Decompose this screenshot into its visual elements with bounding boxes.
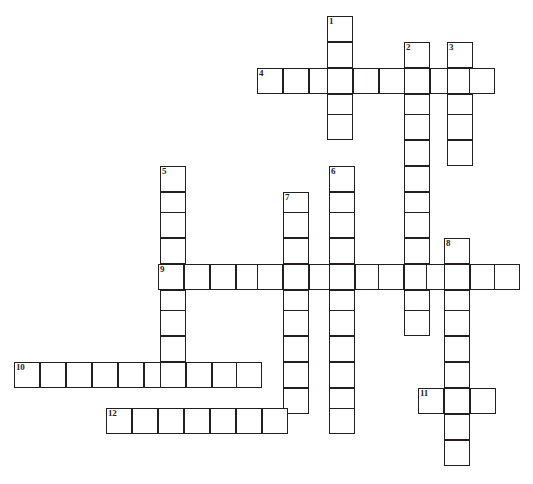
crossword-cell[interactable]: 8 — [444, 238, 470, 264]
crossword-cell[interactable] — [404, 114, 430, 140]
crossword-cell[interactable]: 6 — [329, 166, 355, 192]
crossword-cell[interactable] — [158, 408, 184, 434]
crossword-cell[interactable] — [262, 408, 288, 434]
crossword-cell[interactable] — [329, 310, 355, 336]
clue-number: 4 — [259, 68, 263, 78]
crossword-cell[interactable] — [283, 264, 309, 290]
crossword-cell[interactable] — [329, 238, 355, 264]
crossword-cell[interactable] — [283, 68, 309, 94]
clue-number: 7 — [285, 192, 289, 202]
clue-number: 6 — [331, 166, 335, 176]
crossword-cell[interactable] — [404, 140, 430, 166]
crossword-cell[interactable] — [444, 336, 470, 362]
crossword-cell[interactable] — [444, 264, 470, 290]
crossword-cell[interactable] — [444, 440, 470, 466]
crossword-cell[interactable] — [160, 362, 186, 388]
clue-number: 11 — [420, 388, 428, 398]
crossword-cell[interactable] — [444, 310, 470, 336]
clue-number: 2 — [406, 42, 410, 52]
crossword-cell[interactable] — [210, 264, 236, 290]
crossword-cell[interactable] — [447, 140, 473, 166]
crossword-cell[interactable] — [404, 310, 430, 336]
crossword-cell[interactable] — [404, 212, 430, 238]
crossword-cell[interactable]: 3 — [447, 42, 473, 68]
crossword-cell[interactable] — [329, 212, 355, 238]
crossword-cell[interactable] — [470, 264, 496, 290]
crossword-cell[interactable] — [236, 408, 262, 434]
crossword-cell[interactable] — [236, 362, 262, 388]
crossword-cell[interactable] — [132, 408, 158, 434]
clue-number: 10 — [16, 362, 24, 372]
crossword-cell[interactable] — [283, 212, 309, 238]
crossword-cell[interactable] — [327, 68, 353, 94]
crossword-cell[interactable] — [118, 362, 144, 388]
crossword-cell[interactable] — [444, 388, 470, 414]
crossword-cell[interactable] — [494, 264, 520, 290]
crossword-cell[interactable] — [469, 68, 495, 94]
crossword-cell[interactable] — [283, 238, 309, 264]
crossword-cell[interactable]: 10 — [14, 362, 40, 388]
clue-number: 9 — [160, 264, 164, 274]
crossword-cell[interactable] — [184, 408, 210, 434]
crossword-cell[interactable] — [327, 114, 353, 140]
crossword-cell[interactable] — [329, 264, 355, 290]
crossword-grid[interactable]: 123456789101112 — [0, 0, 533, 484]
crossword-cell[interactable]: 4 — [257, 68, 283, 94]
crossword-cell[interactable] — [160, 310, 186, 336]
crossword-cell[interactable] — [212, 362, 238, 388]
crossword-cell[interactable] — [447, 114, 473, 140]
clue-number: 8 — [446, 238, 450, 248]
crossword-cell[interactable] — [327, 42, 353, 68]
clue-number: 3 — [449, 42, 453, 52]
crossword-cell[interactable] — [404, 238, 430, 264]
crossword-cell[interactable] — [470, 388, 496, 414]
crossword-cell[interactable] — [160, 212, 186, 238]
crossword-cell[interactable] — [186, 362, 212, 388]
clue-number: 12 — [108, 408, 116, 418]
crossword-cell[interactable]: 9 — [158, 264, 184, 290]
crossword-cell[interactable] — [160, 238, 186, 264]
crossword-cell[interactable] — [444, 362, 470, 388]
crossword-cell[interactable] — [283, 336, 309, 362]
crossword-cell[interactable] — [92, 362, 118, 388]
crossword-cell[interactable] — [444, 414, 470, 440]
clue-number: 5 — [162, 166, 166, 176]
crossword-cell[interactable] — [378, 264, 404, 290]
clue-number: 1 — [329, 16, 333, 26]
crossword-cell[interactable] — [329, 336, 355, 362]
crossword-cell[interactable] — [257, 264, 283, 290]
crossword-cell[interactable] — [329, 408, 355, 434]
crossword-cell[interactable] — [283, 310, 309, 336]
crossword-cell[interactable] — [283, 362, 309, 388]
crossword-cell[interactable] — [184, 264, 210, 290]
crossword-cell[interactable]: 1 — [327, 16, 353, 42]
crossword-cell[interactable]: 2 — [404, 42, 430, 68]
crossword-cell[interactable] — [210, 408, 236, 434]
crossword-cell[interactable] — [40, 362, 66, 388]
crossword-cell[interactable] — [353, 68, 379, 94]
crossword-cell[interactable] — [160, 336, 186, 362]
crossword-cell[interactable] — [66, 362, 92, 388]
crossword-cell[interactable]: 12 — [106, 408, 132, 434]
crossword-cell[interactable]: 5 — [160, 166, 186, 192]
crossword-cell[interactable] — [404, 68, 430, 94]
crossword-cell[interactable] — [329, 362, 355, 388]
crossword-cell[interactable]: 11 — [418, 388, 444, 414]
crossword-cell[interactable] — [379, 68, 405, 94]
crossword-cell[interactable] — [404, 166, 430, 192]
